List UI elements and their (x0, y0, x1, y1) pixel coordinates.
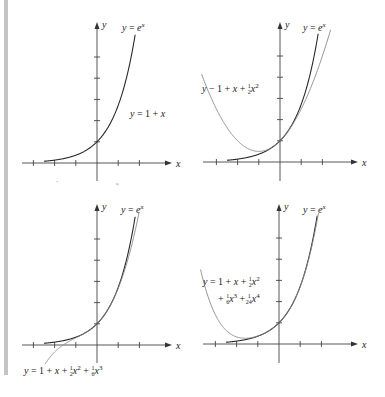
panel-cubic: xyy = exy = 1 + x + 12x2 + 16x3 (22, 201, 181, 377)
x-axis-label: x (175, 340, 181, 351)
y-axis-arrow-icon (277, 204, 282, 211)
taylor-label: y = 1 + x + 12x2 + 16x3 (23, 364, 103, 377)
x-axis-arrow-icon (351, 342, 358, 347)
panel-quadratic: xyy = exy − 1 + x + 12x2 (201, 19, 367, 181)
taylor-label-line2: + 16x3 + 124x4 (218, 292, 260, 305)
exp-curve (44, 35, 135, 162)
exp-label: y = ex (302, 21, 327, 33)
y-axis-arrow-icon (278, 22, 283, 29)
y-axis-arrow-icon (95, 204, 100, 211)
x-axis-arrow-icon (165, 161, 172, 166)
panel-linear: xyy = exy = 1 + x (22, 19, 181, 182)
x-axis-arrow-icon (351, 160, 358, 165)
y-axis-label: y (283, 201, 289, 212)
y-axis-label: y (284, 19, 290, 30)
x-axis-label: x (175, 158, 181, 169)
y-axis-label: y (101, 201, 107, 212)
taylor-curve (57, 181, 58, 182)
taylor-label: y = 1 + x + 12x2 (202, 275, 260, 288)
x-axis-label: x (361, 157, 367, 168)
taylor-label: y = 1 + x (129, 108, 166, 119)
taylor-label: y − 1 + x + 12x2 (201, 82, 259, 95)
panel-quartic: xyy = exy = 1 + x + 12x2+ 16x3 + 124x4 (201, 201, 367, 363)
taylor-approximation-figure: xyy = exy = 1 + xxyy = exy − 1 + x + 12x… (0, 0, 385, 397)
exp-curve (227, 34, 318, 161)
y-axis-label: y (101, 19, 107, 30)
y-axis-arrow-icon (95, 22, 100, 29)
x-axis-label: x (361, 339, 367, 350)
exp-label: y = ex (120, 203, 145, 215)
exp-label: y = ex (302, 203, 327, 215)
x-axis-arrow-icon (165, 343, 172, 348)
stray-mark: ц (116, 181, 119, 186)
exp-label: y = ex (121, 21, 146, 33)
